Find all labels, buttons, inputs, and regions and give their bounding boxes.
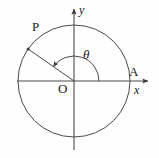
angle-arc-theta (54, 56, 100, 81)
label-x-axis: x (134, 84, 139, 96)
point-p-marker (27, 48, 30, 51)
unit-circle-diagram (0, 0, 159, 158)
label-angle-theta: θ (83, 48, 89, 61)
label-point-p: P (32, 20, 39, 33)
label-origin: O (58, 82, 67, 95)
radius-segment-op (28, 49, 74, 81)
geometry-figure: P O A y x θ (0, 0, 159, 158)
label-point-a: A (129, 65, 138, 78)
label-y-axis: y (79, 4, 84, 16)
